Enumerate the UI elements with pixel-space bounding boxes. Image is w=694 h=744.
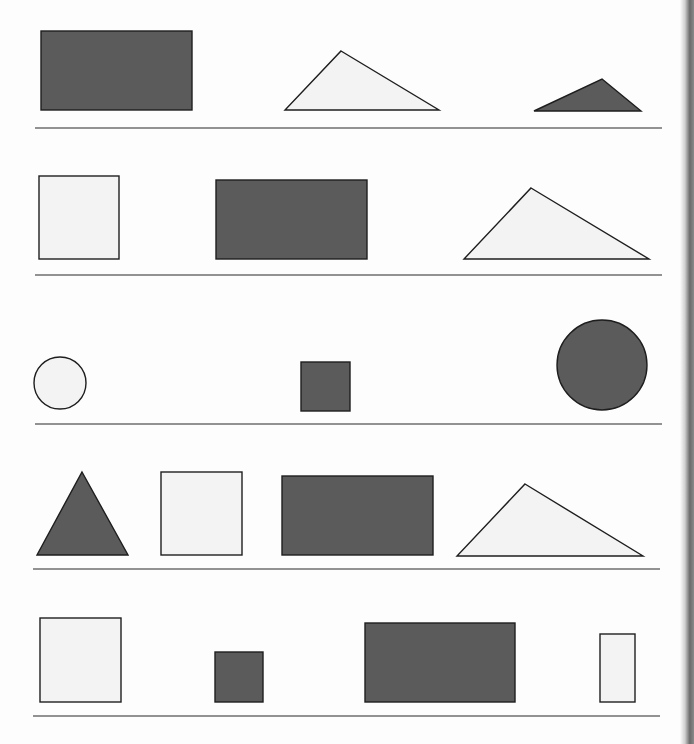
dark-rect-shape xyxy=(216,180,367,259)
light-triangle-shape xyxy=(285,51,439,110)
dark-rect-shape xyxy=(215,652,263,702)
page-curl-shadow xyxy=(680,0,694,744)
dark-rect-shape xyxy=(365,623,515,702)
light-rect-shape xyxy=(39,176,119,259)
shapes-canvas xyxy=(0,0,694,744)
shape-row-4 xyxy=(33,472,660,569)
light-rect-shape xyxy=(161,472,242,555)
shape-row-3 xyxy=(34,320,662,424)
dark-rect-shape xyxy=(282,476,433,555)
light-circle-shape xyxy=(34,357,86,409)
light-triangle-shape xyxy=(464,188,649,259)
dark-triangle-shape xyxy=(37,472,128,555)
dark-triangle-shape xyxy=(534,79,641,111)
dark-rect-shape xyxy=(301,362,350,411)
light-triangle-shape xyxy=(457,484,643,556)
dark-circle-shape xyxy=(557,320,647,410)
shape-row-2 xyxy=(35,176,662,275)
dark-rect-shape xyxy=(41,31,192,110)
worksheet-page xyxy=(0,0,694,744)
shape-row-1 xyxy=(35,31,662,128)
shape-row-5 xyxy=(33,618,660,716)
light-rect-shape xyxy=(600,634,635,702)
light-rect-shape xyxy=(40,618,121,702)
